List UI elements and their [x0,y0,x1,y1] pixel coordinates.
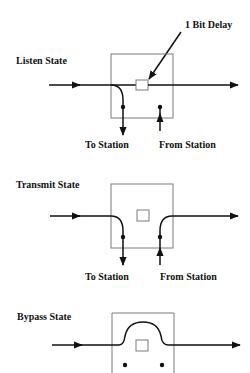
listen-delay-square [136,80,148,90]
transmit-delay-square [137,210,149,221]
transmit-to-station-arrow [78,216,123,265]
bypass-state-label: Bypass State [17,311,72,322]
transmit-ring-out-arrow [160,216,238,248]
listen-state-label: Listen State [16,55,67,66]
transmit-to-station-dot [121,235,125,239]
bypass-right-dot [160,363,164,367]
transmit-from-station-label: From Station [160,271,217,282]
listen-state-panel: Listen State 1 Bit Delay To Station From… [16,19,238,150]
token-ring-states-diagram: Listen State 1 Bit Delay To Station From… [0,0,250,373]
bypass-delay-square [136,340,148,351]
listen-to-station-dot [121,105,125,109]
listen-to-station-arrow [111,85,123,135]
transmit-state-panel: Transmit State To Station From Station [16,179,238,282]
transmit-to-station-label: To Station [85,271,129,282]
delay-pointer-arrow [149,32,181,79]
bypass-state-panel: Bypass State [17,311,240,373]
listen-from-station-dot [158,105,162,109]
bypass-left-dot [123,363,127,367]
transmit-state-label: Transmit State [16,179,80,190]
listen-from-station-label: From Station [159,139,216,150]
transmit-from-station-dot [158,235,162,239]
listen-to-station-label: To Station [85,139,129,150]
one-bit-delay-label: 1 Bit Delay [185,19,232,30]
bypass-ring-path-arrow [80,322,240,345]
